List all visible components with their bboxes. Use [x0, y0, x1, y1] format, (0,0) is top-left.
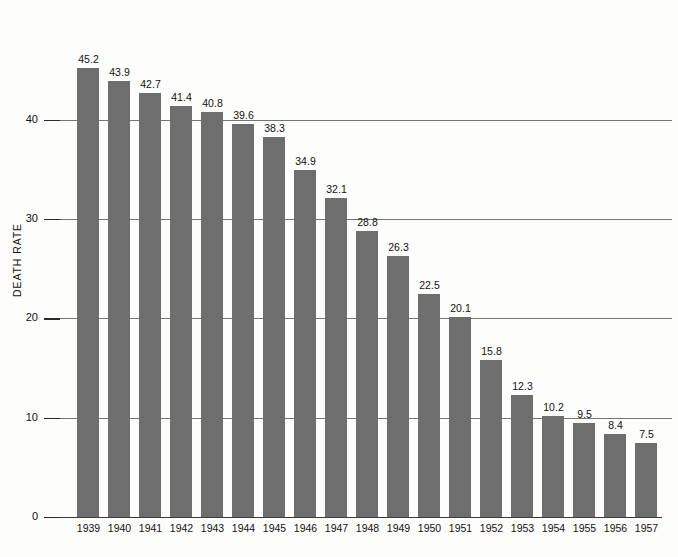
bar-value-label: 45.2 — [68, 53, 109, 65]
bar-group[interactable]: 32.11947 — [321, 14, 352, 517]
bar-1947[interactable] — [325, 198, 347, 517]
bar-group[interactable]: 40.81943 — [197, 14, 228, 517]
gridline-0 — [60, 517, 662, 518]
y-tick-label-30: 30 — [8, 212, 38, 224]
bar-1950[interactable] — [418, 294, 440, 517]
bar-group[interactable]: 22.51950 — [414, 14, 445, 517]
bar-value-label: 20.1 — [440, 302, 481, 314]
bar-group[interactable]: 28.81948 — [352, 14, 383, 517]
bar-value-label: 7.5 — [626, 428, 667, 440]
x-axis-label-1957: 1957 — [625, 522, 668, 534]
bar-value-label: 39.6 — [223, 109, 264, 121]
bar-value-label: 28.8 — [347, 216, 388, 228]
bar-group[interactable]: 26.31949 — [383, 14, 414, 517]
bottom-caption — [470, 549, 675, 557]
bar-value-label: 22.5 — [409, 279, 450, 291]
y-tick-40 — [44, 120, 60, 121]
bar-group[interactable]: 7.51957 — [631, 14, 662, 517]
y-tick-label-10: 10 — [8, 411, 38, 423]
bar-group[interactable]: 38.31945 — [259, 14, 290, 517]
bar-value-label: 34.9 — [285, 155, 326, 167]
plot-area: 010203040 45.2193943.9194042.7194141.419… — [60, 14, 678, 517]
bar-1949[interactable] — [387, 256, 409, 517]
bar-1953[interactable] — [511, 395, 533, 517]
bar-value-label: 15.8 — [471, 345, 512, 357]
y-tick-label-0: 0 — [8, 510, 38, 522]
bar-group[interactable]: 41.41942 — [166, 14, 197, 517]
bar-1957[interactable] — [635, 443, 657, 517]
bar-group[interactable]: 42.71941 — [135, 14, 166, 517]
bar-group[interactable]: 34.91946 — [290, 14, 321, 517]
bar-group[interactable]: 12.31953 — [507, 14, 538, 517]
bar-1939[interactable] — [77, 68, 99, 517]
bar-group[interactable]: 8.41956 — [600, 14, 631, 517]
y-tick-30 — [44, 219, 60, 220]
bar-value-label: 42.7 — [130, 78, 171, 90]
bar-value-label: 12.3 — [502, 380, 543, 392]
y-tick-0 — [44, 517, 60, 518]
bar-group[interactable]: 20.11951 — [445, 14, 476, 517]
bar-chart: DEATH RATE 010203040 45.2193943.9194042.… — [0, 0, 678, 557]
bar-group[interactable]: 10.21954 — [538, 14, 569, 517]
y-axis-title-label: DEATH RATE — [11, 223, 23, 297]
bar-1940[interactable] — [108, 81, 130, 517]
bar-1954[interactable] — [542, 416, 564, 517]
bar-value-label: 26.3 — [378, 241, 419, 253]
y-axis-title: DEATH RATE — [6, 0, 28, 520]
bar-1952[interactable] — [480, 360, 502, 517]
bar-1945[interactable] — [263, 137, 285, 517]
bar-group[interactable]: 15.81952 — [476, 14, 507, 517]
y-tick-label-20: 20 — [8, 311, 38, 323]
bar-1955[interactable] — [573, 423, 595, 517]
bar-1944[interactable] — [232, 124, 254, 517]
bar-1946[interactable] — [294, 170, 316, 517]
bar-1951[interactable] — [449, 317, 471, 517]
bar-1956[interactable] — [604, 434, 626, 517]
bar-1942[interactable] — [170, 106, 192, 517]
bars: 45.2193943.9194042.7194141.4194240.81943… — [60, 14, 678, 517]
bar-group[interactable]: 9.51955 — [569, 14, 600, 517]
y-tick-label-40: 40 — [8, 113, 38, 125]
bar-1941[interactable] — [139, 93, 161, 517]
bar-value-label: 32.1 — [316, 183, 357, 195]
bar-group[interactable]: 39.61944 — [228, 14, 259, 517]
bar-1943[interactable] — [201, 112, 223, 517]
bar-1948[interactable] — [356, 231, 378, 517]
bar-group[interactable]: 45.21939 — [73, 14, 104, 517]
bar-value-label: 38.3 — [254, 122, 295, 134]
bar-value-label: 43.9 — [99, 66, 140, 78]
y-tick-20 — [44, 318, 60, 319]
y-tick-10 — [44, 418, 60, 419]
bar-value-label: 40.8 — [192, 97, 233, 109]
